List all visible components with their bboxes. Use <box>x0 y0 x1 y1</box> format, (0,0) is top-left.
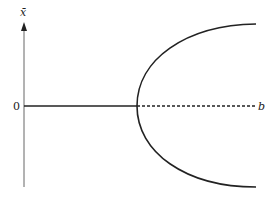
lower-stable-branch <box>137 106 256 187</box>
x-axis-label: b <box>258 100 265 113</box>
y-axis-arrow-icon <box>21 22 27 31</box>
bifurcation-diagram: x̄ 0 b <box>0 0 274 198</box>
zero-label: 0 <box>13 100 20 113</box>
y-axis-label: x̄ <box>20 6 27 19</box>
upper-stable-branch <box>137 24 256 106</box>
